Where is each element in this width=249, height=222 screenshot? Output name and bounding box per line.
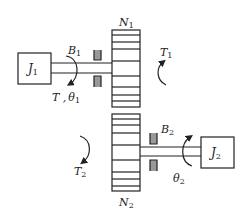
gear1-torque-arrow: T1	[158, 46, 172, 85]
svg-text:T2: T2	[74, 165, 86, 179]
gear-train-diagram: J1 B1 T ,θ1 N1 T1	[0, 0, 249, 222]
svg-text:B2: B2	[160, 123, 174, 137]
gear2-torque-arrow: T2	[74, 136, 89, 179]
output-angle-arrow: θ2	[173, 137, 192, 186]
svg-text:T1: T1	[160, 46, 172, 60]
shaft-1	[51, 63, 112, 73]
svg-text:N1: N1	[118, 16, 134, 30]
gear-n2: N2	[112, 114, 140, 210]
svg-text:T ,θ1: T ,θ1	[52, 91, 80, 105]
svg-text:θ2: θ2	[173, 172, 185, 186]
damper-b1: B1	[67, 44, 101, 87]
inertia-j1: J1	[18, 53, 51, 84]
inertia-j2: J2	[201, 137, 234, 168]
gear-n1: N1	[112, 16, 140, 107]
svg-text:B1: B1	[67, 44, 81, 58]
shaft-2	[140, 147, 201, 156]
svg-text:N2: N2	[118, 196, 134, 210]
